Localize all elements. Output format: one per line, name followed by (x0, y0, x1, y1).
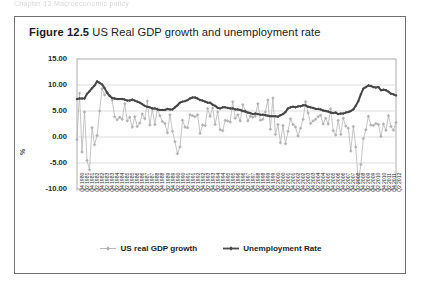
legend-item: US real GDP growth (100, 244, 197, 253)
plot-canvas (15, 17, 407, 275)
legend-marker-unemployment (223, 244, 239, 253)
x-axis-tick: Q2 2012 (396, 173, 402, 192)
chart-area: % 15.0010.005.000.00-5.00-10.00 Q4 1980Q… (15, 17, 407, 275)
legend-item: Unemployment Rate (223, 244, 321, 253)
legend-marker-gdp (100, 244, 116, 253)
legend-label: Unemployment Rate (243, 244, 321, 253)
chart-legend: US real GDP growthUnemployment Rate (15, 244, 407, 253)
figure-box: Figure 12.5 US Real GDP growth and unemp… (14, 16, 406, 274)
legend-label: US real GDP growth (120, 244, 197, 253)
page-bleed-text: Chapter 12 Macroeconomic policy (14, 0, 214, 11)
